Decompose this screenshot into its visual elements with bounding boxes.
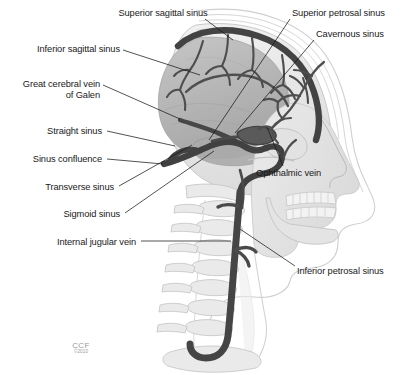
leader-straight-sinus — [107, 131, 175, 146]
label-sigmoid-sinus-text: Sigmoid sinus — [63, 209, 120, 219]
label-straight-sinus: Straight sinus — [20, 126, 102, 137]
credit-copyright: ©2010 — [63, 349, 99, 354]
label-great-cerebral-vein-of-galen-text2: of Galen — [66, 90, 100, 100]
label-inferior-sagittal-sinus-text: Inferior sagittal sinus — [37, 44, 120, 54]
label-ophthalmic-vein: Ophthalmic vein — [256, 168, 321, 179]
label-inferior-petrosal-sinus-text: Inferior petrosal sinus — [297, 266, 384, 276]
label-internal-jugular-vein: Internal jugular vein — [30, 237, 136, 248]
label-superior-petrosal-sinus: Superior petrosal sinus — [292, 8, 385, 19]
vertebra — [174, 201, 244, 217]
label-transverse-sinus-text: Transverse sinus — [45, 182, 114, 192]
label-sinus-confluence-text: Sinus confluence — [33, 154, 102, 164]
vertebra — [171, 220, 242, 236]
vertebra — [162, 280, 236, 296]
label-transverse-sinus: Transverse sinus — [20, 182, 114, 193]
label-inferior-petrosal-sinus: Inferior petrosal sinus — [297, 266, 384, 277]
label-ophthalmic-vein-text: Ophthalmic vein — [256, 168, 321, 178]
leader-transverse-sinus — [119, 145, 192, 186]
label-superior-sagittal-sinus: Superior sagittal sinus — [83, 8, 243, 19]
label-sinus-confluence: Sinus confluence — [8, 154, 102, 165]
label-cavernous-sinus-text: Cavernous sinus — [316, 29, 384, 39]
vertebra — [165, 260, 238, 276]
label-superior-petrosal-sinus-text: Superior petrosal sinus — [292, 8, 385, 18]
vertebra — [159, 300, 234, 316]
credit-mark: CCF ©2010 — [63, 341, 99, 354]
label-sigmoid-sinus: Sigmoid sinus — [40, 209, 120, 220]
leader-sinus-confluence — [107, 159, 163, 164]
vertebra — [168, 240, 240, 256]
label-great-cerebral-vein-of-galen-text: Great cerebral vein — [23, 79, 100, 89]
label-internal-jugular-vein-text: Internal jugular vein — [57, 237, 136, 247]
label-great-cerebral-vein-of-galen: Great cerebral vein of Galen — [0, 79, 100, 101]
label-inferior-sagittal-sinus: Inferior sagittal sinus — [8, 44, 120, 55]
label-cavernous-sinus: Cavernous sinus — [316, 29, 384, 40]
label-superior-sagittal-sinus-text: Superior sagittal sinus — [118, 8, 207, 18]
label-straight-sinus-text: Straight sinus — [47, 126, 102, 136]
vertebra — [157, 320, 232, 336]
